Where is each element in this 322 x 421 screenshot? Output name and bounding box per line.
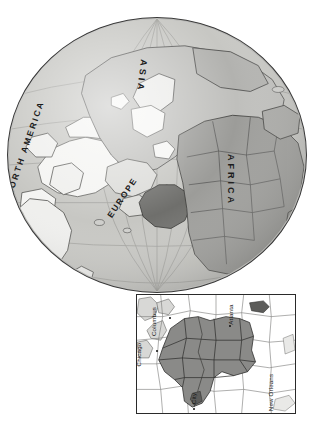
inset-graphics (137, 295, 295, 413)
globe-graphics (8, 18, 306, 292)
globe-panel: NORTH AMERICA ASIA EUROPE AFRICA (0, 0, 322, 300)
inset-map: Chicago Columbus Atlanta New Orleans Cit… (136, 294, 296, 414)
globe: NORTH AMERICA ASIA EUROPE AFRICA (7, 17, 307, 293)
map-figure: NORTH AMERICA ASIA EUROPE AFRICA (0, 0, 322, 421)
